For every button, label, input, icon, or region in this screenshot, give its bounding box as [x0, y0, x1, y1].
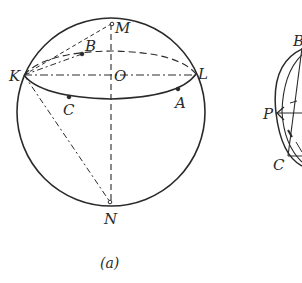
line-c-diag [296, 142, 302, 152]
point-c [67, 95, 71, 99]
label-m: M [114, 19, 131, 37]
label-p: P [262, 105, 274, 123]
label-n: N [103, 210, 118, 228]
label-b: B [84, 37, 96, 55]
point-n [108, 200, 112, 204]
label-o: O [114, 67, 126, 85]
caption-a: (a) [100, 255, 119, 271]
figure-a [17, 18, 205, 206]
figure-b [275, 47, 302, 166]
great-circle-back [24, 51, 196, 75]
point-m [110, 22, 114, 26]
label-b2: B [292, 32, 302, 50]
label-k: K [8, 67, 21, 85]
point-a [176, 87, 180, 91]
label-c: C [63, 101, 75, 119]
label-l: L [197, 65, 208, 83]
label-a: A [173, 94, 186, 112]
line-km [24, 24, 111, 75]
figure-a-labels: M B O K L C A N (a) [8, 19, 208, 271]
line-kn [24, 75, 110, 202]
label-c2: C [273, 156, 285, 174]
tick-1 [290, 101, 297, 103]
point-b [80, 52, 84, 56]
sphere-diagram: M B O K L C A N (a) B P C [0, 0, 302, 283]
great-circle-front [24, 74, 196, 99]
line-kb [24, 54, 82, 75]
